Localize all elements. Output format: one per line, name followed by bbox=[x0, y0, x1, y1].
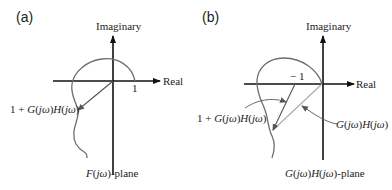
nyquist-diagram: (a) Imaginary Real 1 1 + G(jω)H(jω) F(jω… bbox=[0, 0, 392, 190]
vector-label-b-2: G(jω)H(jω) bbox=[336, 118, 389, 131]
nyquist-curve-a bbox=[72, 59, 135, 158]
vector-label-b-1: 1 + G(jω)H(jω) bbox=[197, 112, 267, 125]
vector-1-plus-gh-b bbox=[273, 84, 295, 130]
imaginary-axis-label-a: Imaginary bbox=[96, 20, 142, 32]
real-axis-label-b: Real bbox=[356, 78, 376, 90]
plane-label-a: F(jω)-plane bbox=[85, 167, 139, 180]
panel-b: (b) Imaginary Real − 1 1 + G(jω)H(jω) G(… bbox=[197, 9, 389, 180]
vector-label-a: 1 + G(jω)H(jω) bbox=[10, 103, 80, 116]
tick-label-minus-1: − 1 bbox=[290, 70, 304, 82]
leader-gh-b bbox=[302, 106, 337, 124]
real-axis-label-a: Real bbox=[163, 75, 183, 87]
plane-label-b: G(jω)H(jω)-plane bbox=[285, 167, 365, 180]
panel-b-tag: (b) bbox=[202, 9, 219, 25]
vector-1-plus-gh-a bbox=[78, 81, 113, 110]
vector-gh-b bbox=[273, 84, 322, 130]
panel-a-tag: (a) bbox=[16, 9, 33, 25]
panel-a: (a) Imaginary Real 1 1 + G(jω)H(jω) F(jω… bbox=[10, 9, 183, 180]
imaginary-axis-label-b: Imaginary bbox=[306, 20, 352, 32]
tick-label-1: 1 bbox=[132, 82, 138, 94]
leader-1-plus-gh-b bbox=[245, 100, 286, 108]
